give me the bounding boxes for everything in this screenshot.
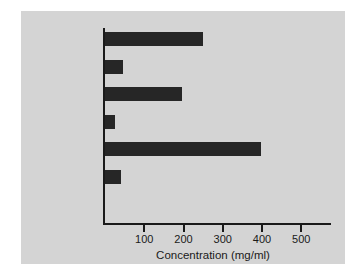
figure-panel: TearsSalivaNasal mucusMilkColostrumSerum…	[21, 11, 345, 264]
x-tick-label: 200	[174, 233, 192, 245]
bar	[105, 60, 123, 74]
bar	[105, 32, 203, 46]
bar-group: TearsSalivaNasal mucusMilkColostrumSerum	[21, 31, 345, 196]
bar-row: Milk	[21, 114, 345, 142]
x-axis-title: Concentration (mg/ml)	[21, 249, 345, 261]
x-tick	[183, 225, 185, 232]
bar	[105, 170, 121, 184]
x-tick-label: 300	[214, 233, 232, 245]
x-tick	[222, 225, 224, 232]
bar	[105, 87, 182, 101]
bar	[105, 115, 115, 129]
x-tick	[143, 225, 145, 232]
bar-row: Nasal mucus	[21, 86, 345, 114]
plot-area: TearsSalivaNasal mucusMilkColostrumSerum…	[21, 11, 345, 264]
x-tick-label: 400	[253, 233, 271, 245]
bar-row: Tears	[21, 31, 345, 59]
x-axis-line	[103, 223, 331, 225]
bar	[105, 142, 261, 156]
bar-row: Serum	[21, 169, 345, 197]
x-tick-label: 100	[135, 233, 153, 245]
x-tick	[261, 225, 263, 232]
x-tick-label: 500	[292, 233, 310, 245]
bar-row: Saliva	[21, 59, 345, 87]
bar-row: Colostrum	[21, 141, 345, 169]
x-tick	[300, 225, 302, 232]
